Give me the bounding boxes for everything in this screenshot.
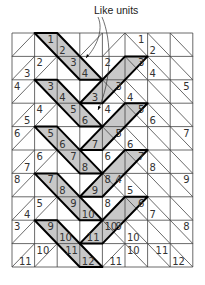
unit-label: 3 [92,92,98,103]
unit-label: 6 [150,115,156,126]
unit-label: 6 [127,139,133,150]
unit-label: 6 [104,151,110,162]
unit-label: 11 [65,245,78,256]
unit-label: 10 [82,209,95,220]
unit-label: 7 [138,151,144,162]
unit-label: 7 [70,151,76,162]
unit-label: 7 [183,128,189,139]
unit-label: 11 [156,245,169,256]
unit-label: 4 [24,209,30,220]
unit-label: 5 [127,185,133,196]
unit-label: 5 [24,115,30,126]
unit-label: 6 [59,139,65,150]
unit-label: 4 [127,92,133,103]
unit-label: 10 [127,245,140,256]
unit-label: 9 [92,185,98,196]
cell-diagonal [148,127,171,150]
unit-label: 5 [70,104,76,115]
unit-label: 3 [138,57,144,68]
unit-label: 7 [92,139,98,150]
unit-label: 5 [48,128,54,139]
unit-label: 1 [138,34,144,45]
unit-label: 3 [115,81,121,92]
unit-label: 4 [59,92,65,103]
unit-label: 4 [150,68,156,79]
cell-diagonal [102,33,125,56]
cell-diagonal [12,33,35,56]
cell-diagonal [148,80,171,103]
unit-label: 4 [14,81,20,92]
cell-diagonal [170,150,193,173]
cell-diagonal [170,56,193,79]
unit-label: 9 [183,174,189,185]
unit-label: 6 [82,115,88,126]
unit-label: 3 [24,68,30,79]
unit-label: 4 [82,68,88,79]
cell-diagonal [170,197,193,220]
unit-label: 8 [104,174,110,185]
unit-label: 8 [104,198,110,209]
unit-label: 6 [14,128,20,139]
unit-label: 10 [59,232,72,243]
unit-label: 7 [24,162,30,173]
unit-label: 6 [138,198,144,209]
unit-label: 5 [37,198,43,209]
unit-label: 8 [183,221,189,232]
unit-label: 9 [48,221,54,232]
unit-label: 2 [37,57,43,68]
unit-label: 11 [19,256,32,267]
unit-label: 9 [70,198,76,209]
unit-label: 3 [48,81,54,92]
cell-diagonal [148,220,171,243]
unit-label: 3 [14,221,20,232]
unit-label: 2 [59,45,65,56]
unit-label: 8 [150,162,156,173]
unit-label: 9 [115,221,121,232]
chevron-quilt-diagram: 1212323423443433455456456656756776786788… [0,0,205,285]
unit-label: 8 [14,174,20,185]
unit-label: 5 [115,128,121,139]
unit-label: 8 [59,185,65,196]
unit-label: 12 [82,256,95,267]
unit-label: 8 [82,162,88,173]
unit-label: 5 [138,104,144,115]
unit-label: 4 [115,174,121,185]
unit-label: 4 [104,104,110,115]
unit-label: 6 [37,151,43,162]
unit-label: 1 [48,34,54,45]
unit-label: 3 [70,57,76,68]
unit-label: 7 [48,174,54,185]
unit-label: 5 [183,81,189,92]
unit-label: 10 [127,232,140,243]
unit-label: 2 [104,57,110,68]
unit-label: 10 [37,245,50,256]
unit-label: 11 [109,256,122,267]
unit-label: 4 [37,104,43,115]
unit-label: 12 [172,256,185,267]
cell-diagonal [170,33,193,56]
unit-label: 2 [150,45,156,56]
unit-label: 7 [150,209,156,220]
cell-diagonal [170,103,193,126]
callout-arrow-2-head [98,106,101,110]
unit-label: 11 [87,232,100,243]
cell-diagonal [148,173,171,196]
